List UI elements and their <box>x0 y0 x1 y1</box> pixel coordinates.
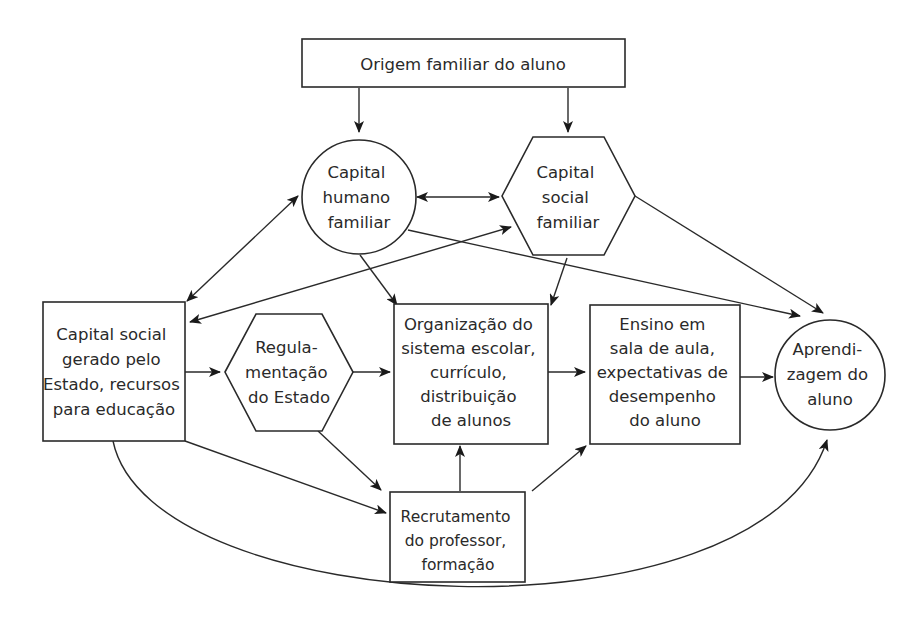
node-recrutamento-professor: Recrutamento do professor, formação <box>390 492 525 582</box>
node-organizacao-sistema-escolar: Organização do sistema escolar, currícul… <box>394 304 548 444</box>
node-capital-social-familiar: Capital social familiar <box>502 137 635 255</box>
node-origem-familiar: Origem familiar do aluno <box>302 39 625 87</box>
edge-capital-humano-capital-social-estado <box>187 196 298 301</box>
edge-capital-social-estado-to-recrutamento <box>185 441 386 513</box>
diagram-canvas: Origem familiar do aluno Capital humano … <box>0 0 921 633</box>
edge-capital-social-familiar-to-aprendizagem <box>635 196 823 313</box>
node-capital-humano-familiar-label: Capital humano familiar <box>323 163 396 232</box>
edge-capital-social-familiar-to-organizacao <box>551 258 567 305</box>
node-capital-humano-familiar: Capital humano familiar <box>302 140 416 254</box>
node-capital-social-estado: Capital social gerado pelo Estado, recur… <box>43 302 185 441</box>
node-ensino-sala-de-aula: Ensino em sala de aula, expectativas de … <box>590 305 740 444</box>
node-regulamentacao-estado-label: Regula- mentação do Estado <box>245 338 333 407</box>
edge-recrutamento-to-ensino <box>532 446 586 491</box>
node-aprendizagem-aluno: Aprendi- zagem do aluno <box>775 320 885 430</box>
node-origem-familiar-label: Origem familiar do aluno <box>360 55 566 74</box>
node-regulamentacao-estado: Regula- mentação do Estado <box>225 314 353 431</box>
edge-regulamentacao-to-recrutamento <box>318 431 381 490</box>
node-capital-social-familiar-label: Capital social familiar <box>536 163 599 232</box>
